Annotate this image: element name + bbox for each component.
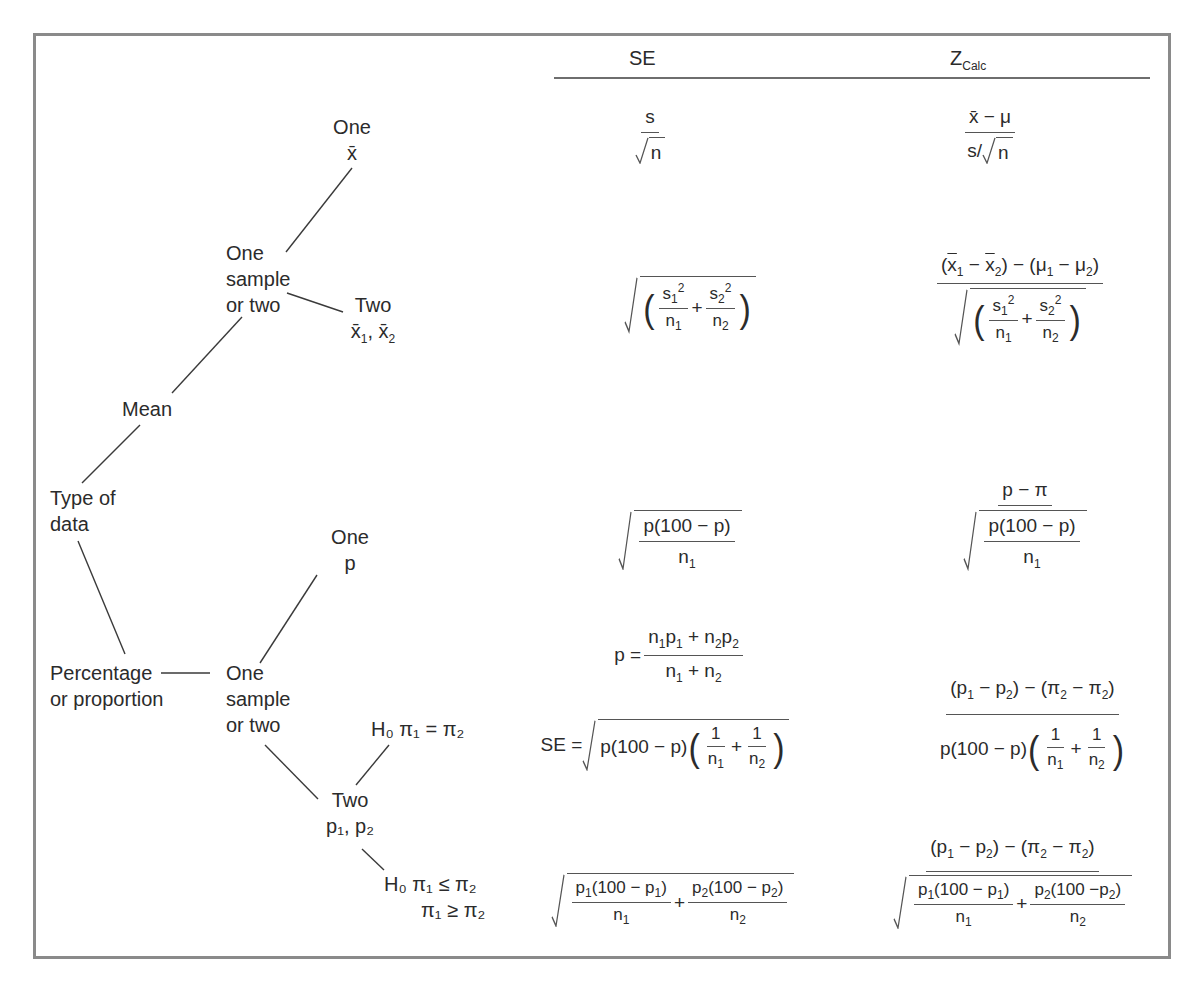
z-two-proportions-inequality: (p1 − p2) − (π2 − π2) p1(100 − p1)n1 + p… xyxy=(870,815,1155,950)
se-two-means: ( s12n1 + s22n2 ) xyxy=(600,270,780,340)
pooled-p: p = n1p1 + n2p2n1 + n2 xyxy=(590,615,770,695)
se-two-proportions-inequality: p1(100 − p1)n1 + p2(100 − p2)n2 xyxy=(545,855,800,945)
line-type-to-proportion xyxy=(78,541,125,654)
line-mean-to-sample xyxy=(172,317,242,393)
node-mean: Mean xyxy=(122,396,172,422)
line-sample-to-one-mean xyxy=(286,168,352,252)
node-proportion-sample-choice: One sample or two xyxy=(226,660,290,738)
line-type-to-mean xyxy=(82,425,140,483)
node-mean-sample-choice: One sample or two xyxy=(226,240,290,318)
line-two-p-to-h0-equal xyxy=(356,745,389,785)
z-calc-column-header: ZCalc xyxy=(950,47,986,73)
z-two-proportions-equal: (p1 − p2) − (π2 − π2) p(100 − p) ( 1n1 +… xyxy=(915,665,1150,785)
line-sample-to-one-p xyxy=(260,575,317,663)
node-percentage-or-proportion: Percentage or proportion xyxy=(50,660,163,712)
node-one-p: One p xyxy=(318,524,382,576)
se-one-mean: s n xyxy=(600,100,700,170)
header-rule xyxy=(554,77,1150,79)
node-h0-equal: H₀ π₁ = π₂ xyxy=(371,716,464,742)
z-two-means: (x1 − x2) − (μ1 − μ2) ( s12n1 + s22n2 ) xyxy=(895,240,1145,360)
node-h0-inequality: H₀ π₁ ≤ π₂ π₁ ≥ π₂ xyxy=(384,871,485,923)
node-two-p: Two p₁, p₂ xyxy=(312,787,388,839)
z-one-proportion: p − π p(100 − p)n1 xyxy=(950,465,1100,585)
se-two-proportions-equal: SE = p(100 − p) ( 1n1 + 1n2 ) xyxy=(535,705,795,785)
se-one-proportion: p(100 − p)n1 xyxy=(600,500,760,580)
line-sample-to-two-p xyxy=(265,745,318,799)
z-one-mean: x̄ − μ s/n xyxy=(930,100,1050,170)
node-type-of-data: Type of data xyxy=(50,485,116,537)
line-two-p-to-h0-inequal xyxy=(362,849,384,870)
node-two-means: Two x̄1, x̄2 xyxy=(335,292,411,352)
node-one-mean: One x̄ xyxy=(320,114,384,166)
se-column-header: SE xyxy=(629,47,656,70)
